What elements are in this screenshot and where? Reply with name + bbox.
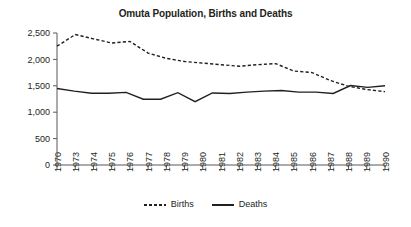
y-tick-label: 0 xyxy=(45,160,50,170)
legend-item-births[interactable]: Births xyxy=(144,200,194,209)
x-tick-label: 1982 xyxy=(235,152,245,172)
x-axis-ticks: 1970197319741975197619771978197919801981… xyxy=(53,152,391,172)
y-tick-label: 2,000 xyxy=(27,55,50,65)
y-tick-label: 1,500 xyxy=(27,81,50,91)
y-tick-label: 2,500 xyxy=(27,28,50,38)
plot-area: 05001,0001,5002,0002,500 197019731974197… xyxy=(0,0,411,227)
chart-legend: Births Deaths xyxy=(0,200,411,209)
x-tick-label: 1983 xyxy=(253,152,263,172)
x-tick-label: 1986 xyxy=(308,152,318,172)
x-tick-label: 1981 xyxy=(217,152,227,172)
x-tick-label: 1979 xyxy=(180,152,190,172)
x-tick-label: 1978 xyxy=(162,152,172,172)
legend-swatch-solid-icon xyxy=(212,204,234,206)
x-tick-label: 1975 xyxy=(107,152,117,172)
chart-container: Omuta Population, Births and Deaths 0500… xyxy=(0,0,411,227)
x-tick-label: 1984 xyxy=(271,152,281,172)
legend-swatch-dotted-icon xyxy=(144,204,166,206)
x-tick-label: 1985 xyxy=(289,152,299,172)
y-tick-label: 1,000 xyxy=(27,107,50,117)
series-line-deaths xyxy=(57,86,385,102)
series-line-births xyxy=(57,35,385,92)
x-tick-label: 1976 xyxy=(125,152,135,172)
x-tick-label: 1987 xyxy=(326,152,336,172)
x-tick-label: 1988 xyxy=(344,152,354,172)
y-axis-ticks: 05001,0001,5002,0002,500 xyxy=(27,28,57,170)
x-tick-label: 1974 xyxy=(89,152,99,172)
x-tick-label: 1977 xyxy=(144,152,154,172)
x-tick-label: 1989 xyxy=(362,152,372,172)
legend-label-births: Births xyxy=(171,200,194,209)
legend-label-deaths: Deaths xyxy=(239,200,268,209)
y-tick-label: 500 xyxy=(35,134,50,144)
legend-item-deaths[interactable]: Deaths xyxy=(212,200,268,209)
x-tick-label: 1980 xyxy=(198,152,208,172)
x-tick-label: 1973 xyxy=(71,152,81,172)
x-tick-label: 1990 xyxy=(381,152,391,172)
